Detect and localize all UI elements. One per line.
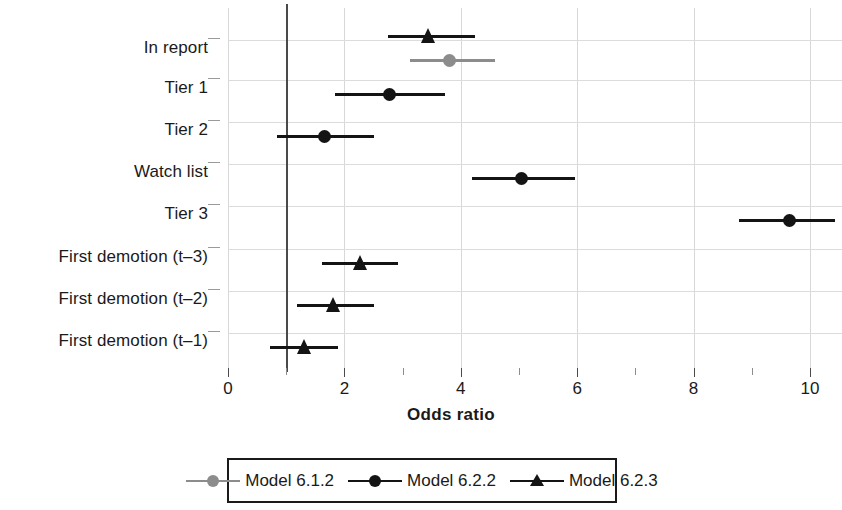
reference-line-or-1: [286, 4, 288, 372]
legend-triangle: [530, 474, 544, 486]
legend-circle: [369, 475, 381, 487]
y-axis-labels: In report Tier 1 Tier 2 Watch list Tier …: [0, 8, 216, 368]
y-tick-mark: [208, 78, 220, 79]
x-tick-major-10: [810, 368, 811, 377]
y-tick-mark: [208, 120, 220, 121]
gridline-vertical-6: [577, 8, 578, 368]
x-tick-major-6: [577, 368, 578, 377]
y-tick-mark: [208, 204, 220, 205]
gridline-vertical-2: [344, 8, 345, 368]
y-tick-mark: [208, 162, 220, 163]
x-axis-title: Odds ratio: [0, 405, 842, 425]
x-tick-label-2: 2: [340, 379, 349, 399]
legend-item-model-623[interactable]: Model 6.2.3: [510, 471, 658, 491]
point-marker-triangle: [421, 28, 435, 43]
point-marker-triangle: [353, 255, 367, 270]
triangle-marker-icon: [510, 474, 564, 488]
y-label-text: Tier 2: [165, 120, 208, 139]
legend-item-model-612[interactable]: Model 6.1.2: [186, 471, 334, 491]
x-axis-title-text: Odds ratio: [407, 405, 495, 425]
circle-marker-icon: [348, 474, 402, 488]
gridline-horizontal-tier-1: [228, 80, 842, 81]
gridline-vertical-8: [694, 8, 695, 368]
gridline-horizontal-watch-list: [228, 164, 842, 165]
y-label-text: In report: [144, 38, 208, 57]
y-axis-label-first-demotion-t3: First demotion (t–3): [59, 247, 208, 267]
forest-plot: In report Tier 1 Tier 2 Watch list Tier …: [0, 0, 842, 510]
gridline-vertical-4: [461, 8, 462, 368]
y-label-text: Tier 1: [165, 78, 208, 97]
gridline-horizontal-tier-2: [228, 122, 842, 123]
y-tick-mark: [208, 38, 220, 39]
y-axis-label-watch-list: Watch list: [134, 162, 208, 182]
point-marker-circle: [318, 130, 331, 143]
x-tick-9: [752, 368, 753, 375]
legend-label-model-612: Model 6.1.2: [245, 471, 334, 491]
gridline-horizontal-tier-3: [228, 206, 842, 207]
point-marker-circle: [783, 214, 796, 227]
x-tick-label-8: 8: [689, 379, 698, 399]
x-tick-1: [286, 368, 287, 375]
gridline-horizontal-first-demotion-t1: [228, 333, 842, 334]
y-axis-label-first-demotion-t2: First demotion (t–2): [59, 289, 208, 309]
x-tick-label-0: 0: [223, 379, 232, 399]
y-label-text: Tier 3: [165, 204, 208, 223]
point-marker-triangle: [297, 339, 311, 354]
gridline-vertical-0: [228, 8, 229, 368]
point-marker-circle: [443, 54, 456, 67]
x-tick-label-10: 10: [801, 379, 820, 399]
legend-label-model-623: Model 6.2.3: [569, 471, 658, 491]
x-tick-major-0: [228, 368, 229, 377]
y-axis-label-first-demotion-t1: First demotion (t–1): [59, 331, 208, 351]
y-label-text: Watch list: [134, 162, 208, 181]
y-tick-mark: [208, 289, 220, 290]
gridline-horizontal-first-demotion-t2: [228, 291, 842, 292]
legend-item-model-622[interactable]: Model 6.2.2: [348, 471, 496, 491]
y-label-text: First demotion (t–2): [59, 289, 208, 308]
x-tick-major-2: [344, 368, 345, 377]
legend-label-model-622: Model 6.2.2: [407, 471, 496, 491]
y-label-text: First demotion (t–1): [59, 331, 208, 350]
y-axis-label-tier-3: Tier 3: [165, 204, 208, 224]
y-axis-label-tier-2: Tier 2: [165, 120, 208, 140]
point-marker-triangle: [326, 297, 340, 312]
legend-circle: [207, 475, 219, 487]
x-tick-major-4: [461, 368, 462, 377]
x-tick-major-8: [694, 368, 695, 377]
gridline-vertical-10: [810, 8, 811, 368]
gridline-horizontal-in-report: [228, 40, 842, 41]
point-marker-circle: [383, 88, 396, 101]
y-axis-label-tier-1: Tier 1: [165, 78, 208, 98]
x-tick-7: [635, 368, 636, 375]
gridline-horizontal-first-demotion-t3: [228, 249, 842, 250]
x-tick-3: [403, 368, 404, 375]
x-tick-5: [519, 368, 520, 375]
circle-marker-icon: [186, 474, 240, 488]
plot-area: [228, 8, 842, 368]
y-axis-label-in-report: In report: [144, 38, 208, 58]
y-tick-mark: [208, 247, 220, 248]
x-tick-label-4: 4: [456, 379, 465, 399]
point-marker-circle: [515, 172, 528, 185]
y-tick-mark: [208, 331, 220, 332]
x-tick-label-6: 6: [572, 379, 581, 399]
y-label-text: First demotion (t–3): [59, 247, 208, 266]
legend: Model 6.1.2 Model 6.2.2 Model 6.2.3: [227, 458, 617, 503]
